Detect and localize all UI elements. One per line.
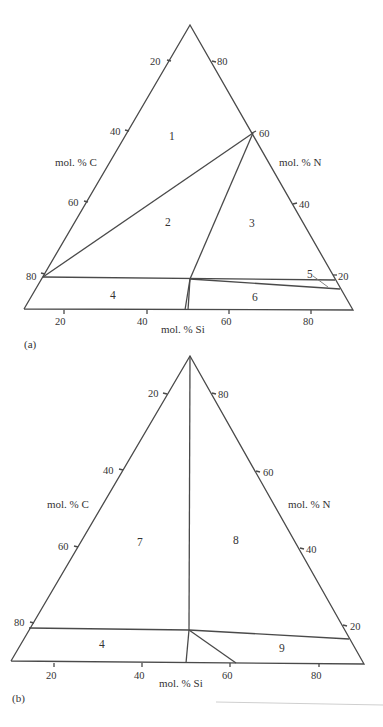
axis-label-si: mol. % Si (159, 677, 203, 689)
axis-label-n: mol. % N (288, 498, 331, 510)
panel-label-a: (a) (24, 338, 37, 351)
panel-b-outline (11, 356, 364, 664)
tick-right-40: 40 (299, 199, 310, 210)
figure-canvas: 20 40 60 80 80 60 40 20 20 40 60 80 mol.… (0, 0, 383, 727)
tick-mark (163, 393, 167, 394)
tick-mark (167, 60, 171, 61)
tick-left-60: 60 (58, 541, 69, 552)
axis-label-n: mol. % N (279, 156, 322, 168)
region-label-5: 5 (307, 268, 313, 280)
tick-bottom-60: 60 (221, 316, 232, 327)
panel-label-b: (b) (12, 692, 25, 705)
tick-mark (212, 393, 216, 394)
tick-bottom-20: 20 (46, 670, 57, 681)
tick-right-60: 60 (259, 128, 270, 139)
panel-b-diagonal-line (189, 630, 236, 663)
tick-bottom-60: 60 (222, 670, 233, 681)
region-label-8: 8 (233, 534, 239, 546)
divider (216, 702, 383, 705)
tick-mark (293, 203, 297, 204)
tick-mark (300, 548, 304, 549)
tick-left-40: 40 (103, 465, 114, 476)
tick-mark (74, 546, 78, 547)
tick-left-80: 80 (26, 271, 37, 282)
panel-a-horizontal-line (43, 277, 335, 280)
tick-left-60: 60 (68, 197, 79, 208)
tick-bottom-40: 40 (134, 670, 145, 681)
tick-mark (252, 131, 256, 133)
tick-bottom-80: 80 (311, 670, 322, 681)
region-label-7: 7 (137, 536, 143, 548)
tick-left-20: 20 (150, 56, 161, 67)
tick-left-20: 20 (148, 388, 159, 399)
panel-b-right-line (189, 630, 349, 639)
region-label-6: 6 (252, 291, 258, 303)
panel-b-lower-vertical-line (186, 630, 189, 663)
tick-left-80: 80 (14, 617, 25, 628)
tick-bottom-40: 40 (137, 316, 148, 327)
region-label-2: 2 (165, 216, 171, 228)
region-label-3: 3 (249, 217, 255, 229)
tick-right-20: 20 (350, 621, 361, 632)
axis-label-c: mol. % C (47, 498, 89, 510)
region-label-4: 4 (110, 289, 116, 301)
region-label-4: 4 (99, 638, 105, 650)
axis-label-si: mol. % Si (161, 323, 205, 335)
panel-a-region5-pointer (313, 276, 328, 287)
tick-right-20: 20 (338, 271, 349, 282)
tick-mark (212, 61, 216, 62)
tick-bottom-20: 20 (55, 316, 66, 327)
tick-right-40: 40 (306, 544, 317, 555)
tick-mark (119, 469, 123, 470)
panel-b-vertical-line (189, 356, 190, 630)
tick-mark (256, 471, 260, 472)
tick-right-80: 80 (217, 56, 228, 67)
axis-label-c: mol. % C (55, 156, 97, 168)
panel-a: 20 40 60 80 80 60 40 20 20 40 60 80 mol.… (24, 25, 353, 351)
tick-left-40: 40 (110, 126, 121, 137)
panel-b-horizontal-line (29, 628, 189, 630)
tick-mark (343, 625, 347, 626)
tick-right-80: 80 (218, 389, 229, 400)
tick-right-60: 60 (263, 467, 274, 478)
region-label-1: 1 (169, 130, 175, 142)
tick-bottom-80: 80 (303, 316, 314, 327)
panel-a-slanted-line (190, 279, 340, 289)
panel-b: 20 40 60 80 80 60 40 20 20 40 60 80 mol.… (11, 356, 364, 705)
region-label-9: 9 (279, 642, 285, 654)
